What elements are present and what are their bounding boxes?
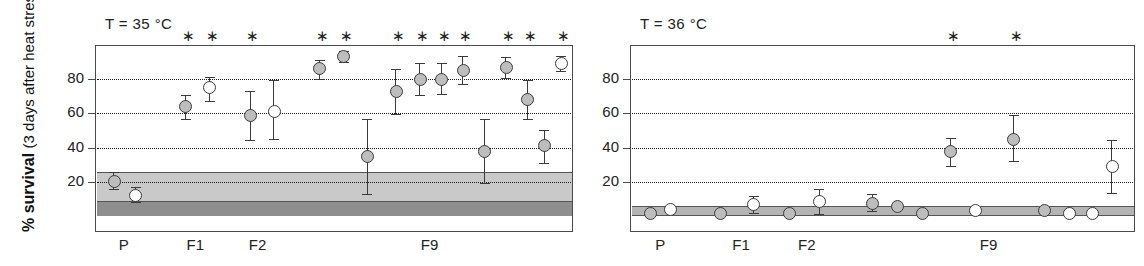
y-axis-title-line1: % survival	[20, 153, 37, 232]
x-axis-group-label: F1	[729, 236, 753, 253]
data-point	[108, 175, 121, 188]
x-axis-group-label: F2	[795, 236, 819, 253]
gridline	[97, 182, 571, 183]
figure-root: % survival (3 days after heat stress) T …	[0, 0, 1144, 266]
error-bar-cap	[269, 139, 279, 140]
error-bar-cap	[415, 63, 425, 64]
significance-marker: ∗	[340, 28, 353, 43]
y-tick-mark	[88, 79, 95, 80]
error-bar-cap	[269, 80, 279, 81]
error-bar-cap	[245, 140, 255, 141]
error-bar-cap	[946, 138, 956, 139]
data-point	[435, 73, 448, 86]
data-point	[268, 105, 281, 118]
significance-marker: ∗	[206, 28, 219, 43]
error-bar-cap	[109, 172, 119, 173]
x-axis-group-label: F9	[418, 236, 442, 253]
error-bar-cap	[109, 189, 119, 190]
error-bar-cap	[523, 119, 533, 120]
data-point	[1038, 204, 1051, 217]
data-point	[457, 64, 470, 77]
y-tick-label: 40	[48, 138, 84, 155]
data-point	[390, 85, 403, 98]
error-bar-cap	[437, 94, 447, 95]
error-bar-cap	[131, 187, 141, 188]
y-tick-mark	[623, 113, 630, 114]
data-point	[866, 197, 879, 210]
data-point	[414, 73, 427, 86]
significance-marker: ∗	[502, 28, 515, 43]
data-point	[361, 150, 374, 163]
error-bar-cap	[814, 189, 824, 190]
error-bar-cap	[181, 119, 191, 120]
y-tick-mark	[623, 79, 630, 80]
data-point	[1086, 207, 1099, 220]
error-bar-cap	[458, 84, 468, 85]
error-bar-cap	[391, 114, 401, 115]
error-bar-cap	[1107, 193, 1117, 194]
panel-title: T = 35 °C	[105, 15, 172, 32]
data-point	[555, 57, 568, 70]
significance-marker: ∗	[182, 28, 195, 43]
error-bar-cap	[539, 163, 549, 164]
significance-marker: ∗	[459, 28, 472, 43]
gridline	[97, 113, 571, 114]
error-bar-cap	[501, 78, 511, 79]
data-point	[783, 207, 796, 220]
gridline	[97, 148, 571, 149]
y-tick-label: 20	[583, 172, 619, 189]
data-point	[969, 204, 982, 217]
gridline	[97, 79, 571, 80]
gridline	[632, 182, 1133, 183]
significance-marker: ∗	[524, 28, 537, 43]
data-point	[644, 207, 657, 220]
error-bar-cap	[245, 91, 255, 92]
significance-marker: ∗	[392, 28, 405, 43]
error-bar-cap	[749, 196, 759, 197]
data-point	[129, 189, 142, 202]
error-bar-cap	[362, 119, 372, 120]
data-point	[500, 61, 513, 74]
gridline	[632, 113, 1133, 114]
error-bar-cap	[946, 166, 956, 167]
x-axis-group-label: P	[112, 236, 136, 253]
y-tick-label: 60	[48, 103, 84, 120]
error-bar-cap	[523, 80, 533, 81]
error-bar-cap	[391, 69, 401, 70]
significance-marker: ∗	[557, 28, 570, 43]
y-tick-mark	[88, 113, 95, 114]
data-point	[813, 195, 826, 208]
reference-band	[97, 202, 572, 216]
error-bar-cap	[1107, 140, 1117, 141]
significance-marker: ∗	[947, 28, 960, 43]
y-tick-label: 60	[583, 103, 619, 120]
reference-band	[632, 206, 1134, 216]
gridline	[632, 148, 1133, 149]
error-bar-cap	[205, 101, 215, 102]
error-bar-cap	[480, 119, 490, 120]
error-bar-cap	[501, 57, 511, 58]
data-point	[1007, 133, 1020, 146]
y-tick-label: 80	[48, 69, 84, 86]
significance-marker: ∗	[246, 28, 259, 43]
error-bar-cap	[867, 211, 877, 212]
error-bar-cap	[181, 95, 191, 96]
error-bar-cap	[437, 63, 447, 64]
panel-title: T = 36 °C	[640, 15, 707, 32]
y-tick-mark	[623, 182, 630, 183]
significance-marker: ∗	[438, 28, 451, 43]
x-axis-group-label: F2	[246, 236, 270, 253]
error-bar-cap	[315, 60, 325, 61]
x-axis-group-label: F1	[183, 236, 207, 253]
error-bar-cap	[867, 194, 877, 195]
data-point	[664, 203, 677, 216]
error-bar-cap	[362, 194, 372, 195]
error-bar-cap	[415, 95, 425, 96]
y-tick-mark	[88, 182, 95, 183]
data-point	[1063, 207, 1076, 220]
y-tick-label: 80	[583, 69, 619, 86]
error-bar-cap	[749, 213, 759, 214]
y-tick-mark	[88, 148, 95, 149]
y-tick-label: 20	[48, 172, 84, 189]
error-bar-cap	[556, 71, 566, 72]
